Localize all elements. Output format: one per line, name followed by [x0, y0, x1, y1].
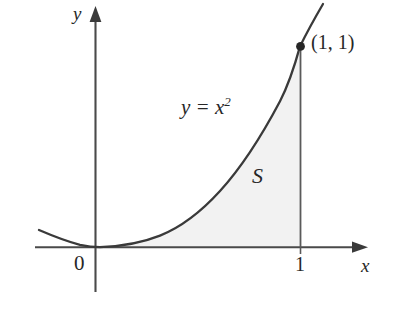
x-tick-label-1: 1	[295, 254, 305, 274]
point-marker-1-1	[296, 42, 305, 51]
curve-equation-base: y = x	[181, 95, 224, 119]
origin-label: 0	[74, 253, 85, 274]
math-figure-parabola-area: y x 0 1 S y = x2 (1, 1)	[0, 0, 399, 312]
shaded-region-s	[100, 46, 300, 247]
point-label-1-1: (1, 1)	[311, 32, 354, 52]
y-axis-label: y	[73, 4, 81, 23]
x-axis-label: x	[361, 256, 369, 275]
curve-equation-label: y = x2	[181, 95, 231, 118]
region-label-s: S	[252, 165, 263, 187]
curve-equation-exponent: 2	[224, 94, 231, 109]
y-axis-arrowhead	[90, 6, 102, 22]
x-axis-arrowhead	[352, 242, 368, 253]
